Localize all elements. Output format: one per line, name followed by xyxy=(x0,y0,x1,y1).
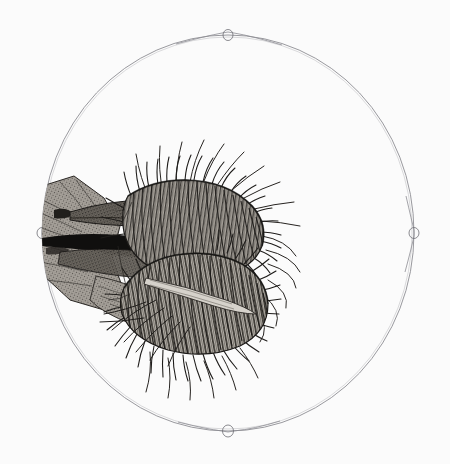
illustration-canvas xyxy=(0,0,450,464)
illustration-plate: hinged ciliated trap xyxy=(0,0,450,464)
